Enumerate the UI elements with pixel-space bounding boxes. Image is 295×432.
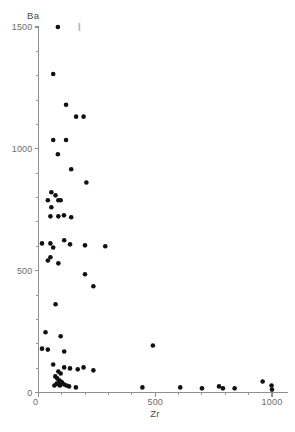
data-point — [200, 386, 205, 391]
data-point-series — [40, 25, 275, 392]
x-tick-label: 1000 — [262, 397, 283, 407]
data-point — [56, 261, 61, 266]
data-point — [51, 245, 56, 250]
data-point — [84, 180, 89, 185]
y-axis-title: Ba — [27, 10, 40, 21]
data-point — [46, 198, 51, 203]
data-point — [49, 205, 54, 210]
y-tick-label: 500 — [17, 266, 33, 276]
data-point — [270, 387, 275, 392]
data-point — [69, 215, 74, 220]
data-point — [68, 242, 73, 247]
data-point — [51, 362, 56, 367]
data-point — [178, 385, 183, 390]
data-point — [83, 272, 88, 277]
x-axis-ticks — [39, 393, 273, 397]
data-point — [151, 343, 156, 348]
data-point — [62, 349, 67, 354]
data-point — [53, 193, 58, 198]
y-tick-label: 0 — [27, 388, 32, 398]
data-point — [69, 167, 74, 172]
y-tick-label: 1000 — [12, 144, 33, 154]
x-axis-tick-labels: 05001000 — [33, 397, 283, 407]
x-tick-label: 500 — [147, 397, 163, 407]
data-point — [48, 214, 53, 219]
data-point — [221, 386, 226, 391]
data-point — [232, 386, 237, 391]
y-tick-label: 1500 — [12, 22, 33, 32]
data-point — [49, 190, 54, 195]
data-point — [68, 366, 73, 371]
data-point — [67, 384, 72, 389]
data-point — [103, 244, 108, 249]
y-axis-ticks — [35, 27, 39, 393]
data-point — [40, 241, 45, 246]
data-point — [81, 114, 86, 119]
data-point — [269, 383, 274, 388]
data-point — [58, 334, 63, 339]
offscale-tick-icon — [78, 23, 80, 31]
data-point — [56, 25, 61, 30]
data-point — [62, 238, 67, 243]
x-tick-label: 0 — [33, 397, 38, 407]
data-point — [62, 213, 67, 218]
data-point — [48, 241, 53, 246]
data-point — [140, 385, 145, 390]
data-point — [52, 383, 57, 388]
data-point — [75, 367, 80, 372]
x-axis-title: Zr — [150, 408, 160, 419]
data-point — [51, 72, 56, 77]
data-point — [58, 198, 63, 203]
data-point — [40, 346, 45, 351]
data-point — [56, 152, 61, 157]
data-point — [260, 379, 265, 384]
plot-canvas: 050010001500 05001000 Ba Zr — [0, 0, 295, 432]
data-point — [46, 347, 51, 352]
data-point — [91, 368, 96, 373]
offscale-marker — [78, 23, 80, 31]
data-point — [81, 365, 86, 370]
data-point — [62, 365, 67, 370]
data-point — [217, 384, 222, 389]
scatter-plot-figure: 050010001500 05001000 Ba Zr — [0, 0, 295, 432]
data-point — [74, 114, 79, 119]
data-point — [83, 243, 88, 248]
y-axis-tick-labels: 050010001500 — [12, 22, 33, 397]
data-point — [51, 138, 56, 143]
data-point — [58, 371, 63, 376]
data-point — [64, 138, 69, 143]
data-point — [43, 330, 48, 335]
axes — [39, 27, 289, 393]
data-point — [58, 383, 63, 388]
data-point — [91, 284, 96, 289]
data-point — [56, 214, 61, 219]
data-point — [46, 258, 51, 263]
data-point — [53, 302, 58, 307]
data-point — [74, 385, 79, 390]
data-point — [64, 102, 69, 107]
